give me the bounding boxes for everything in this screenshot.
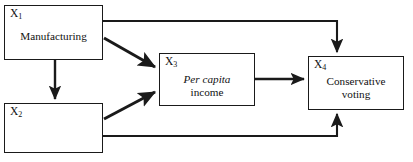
- node-x1-variable-subscript: 1: [18, 12, 22, 21]
- edge-x1-to-x4: [103, 21, 337, 52]
- node-x4-label-line1: Conservative: [326, 75, 385, 87]
- node-x2-variable: X2: [10, 105, 22, 117]
- edge-x2-to-x4: [103, 114, 337, 136]
- node-x3-label: Per capita income: [160, 73, 254, 98]
- edge-x1-to-x3: [104, 38, 155, 67]
- node-x4-conservative-voting: X4 Conservative voting: [308, 56, 404, 110]
- node-x3-label-line2: income: [191, 86, 224, 98]
- node-x2-nonconformity: X2 Nonconformity: [4, 103, 103, 153]
- node-x3-per-capita-income: X3 Per capita income: [159, 53, 255, 106]
- node-x4-label-line2: voting: [342, 88, 371, 100]
- node-x4-variable: X4: [314, 58, 326, 70]
- node-x2-variable-subscript: 2: [18, 110, 22, 119]
- node-x4-variable-subscript: 4: [322, 63, 326, 72]
- node-x4-label: Conservative voting: [309, 75, 403, 100]
- node-x3-variable: X3: [165, 55, 177, 67]
- node-x3-label-italic: Per capita: [184, 73, 231, 85]
- node-x1-variable: X1: [10, 7, 22, 19]
- edge-x2-to-x3: [104, 92, 155, 119]
- node-x1-label: Manufacturing: [5, 30, 102, 43]
- node-x3-variable-subscript: 3: [173, 60, 177, 69]
- node-x1-manufacturing: X1 Manufacturing: [4, 5, 103, 60]
- path-diagram: X1 Manufacturing X2 Nonconformity X3 Per…: [0, 0, 413, 162]
